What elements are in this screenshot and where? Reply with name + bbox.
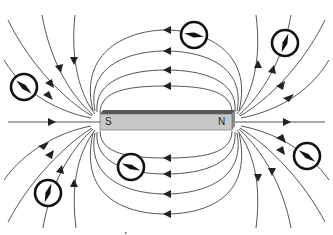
arrow-icon bbox=[56, 165, 64, 174]
north-pole-label: N bbox=[218, 116, 225, 127]
arrow-icon bbox=[163, 170, 171, 178]
arrow-icon bbox=[276, 146, 285, 155]
arrow-icon bbox=[70, 57, 78, 65]
arrow-icon bbox=[163, 47, 171, 55]
arrow-icon bbox=[254, 60, 262, 68]
arrow-icon bbox=[163, 66, 171, 74]
compass-upper-left bbox=[11, 74, 37, 100]
arrow-icon bbox=[48, 118, 56, 126]
arrow-icon bbox=[38, 142, 49, 150]
stray-mark bbox=[125, 232, 127, 234]
arrow-icon bbox=[163, 190, 171, 198]
compass-lower-center bbox=[118, 154, 144, 180]
magnet-front-face bbox=[100, 114, 232, 130]
arrow-icon bbox=[254, 174, 262, 182]
arrow-icon bbox=[55, 64, 63, 73]
arrow-icon bbox=[276, 134, 286, 143]
compass-top-center bbox=[181, 22, 207, 48]
arrow-icon bbox=[163, 154, 171, 162]
arrow-icon bbox=[283, 118, 291, 126]
arrow-icon bbox=[70, 179, 78, 187]
bar-magnet bbox=[100, 110, 235, 130]
arrow-icon bbox=[45, 150, 54, 159]
compass-upper-right bbox=[272, 30, 298, 56]
arrow-icon bbox=[268, 168, 276, 176]
compass-lower-left bbox=[35, 180, 61, 206]
arrow-icon bbox=[43, 91, 53, 100]
arrow-icon bbox=[163, 82, 171, 90]
arrow-icon bbox=[163, 210, 171, 218]
arrow-icon bbox=[163, 26, 171, 34]
arrow-icon bbox=[276, 81, 285, 90]
magnet-top-face bbox=[100, 110, 235, 114]
magnetic-field-diagram bbox=[0, 0, 333, 235]
south-pole-label: S bbox=[105, 116, 112, 127]
compass-lower-right bbox=[294, 143, 320, 169]
